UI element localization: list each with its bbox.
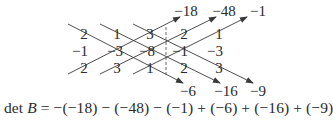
entry-r2c2: −3 <box>107 43 123 59</box>
repeat-r2c2: −3 <box>207 43 223 59</box>
entry-r1c1: 2 <box>80 26 88 42</box>
down-product-2: −16 <box>214 83 238 99</box>
matrix-name: B <box>27 99 37 116</box>
up-product-3: −1 <box>250 3 266 19</box>
repeat-r3c2: 3 <box>215 60 223 76</box>
matrix-entries: 2 1 3 −1 −3 −8 2 3 1 <box>72 26 155 76</box>
entry-r3c2: 3 <box>113 60 121 76</box>
up-product-2: −48 <box>212 3 235 19</box>
repeated-columns: 2 1 −1 −3 2 3 <box>172 26 223 76</box>
det-label: det <box>4 99 23 116</box>
entry-r1c2: 1 <box>113 26 121 42</box>
repeat-r1c1: 2 <box>180 26 188 42</box>
repeat-r1c2: 1 <box>215 26 223 42</box>
determinant-equation: det B = −(−18) − (−48) − (−1) + (−6) + (… <box>4 99 333 117</box>
repeat-r3c1: 2 <box>180 60 188 76</box>
entry-r3c3: 1 <box>146 60 154 76</box>
entry-r2c1: −1 <box>72 43 88 59</box>
repeat-r2c1: −1 <box>172 43 188 59</box>
upward-products: −18 −48 −1 <box>174 3 266 19</box>
entry-r1c3: 3 <box>146 26 154 42</box>
equation-rhs: = −(−18) − (−48) − (−1) + (−6) + (−16) +… <box>41 99 333 116</box>
down-product-1: −6 <box>180 83 196 99</box>
downward-diagonals <box>68 24 253 83</box>
entry-r2c3: −8 <box>139 43 155 59</box>
downward-products: −6 −16 −9 <box>180 83 266 99</box>
entry-r3c1: 2 <box>80 60 88 76</box>
up-product-1: −18 <box>174 3 197 19</box>
down-product-3: −9 <box>250 83 266 99</box>
